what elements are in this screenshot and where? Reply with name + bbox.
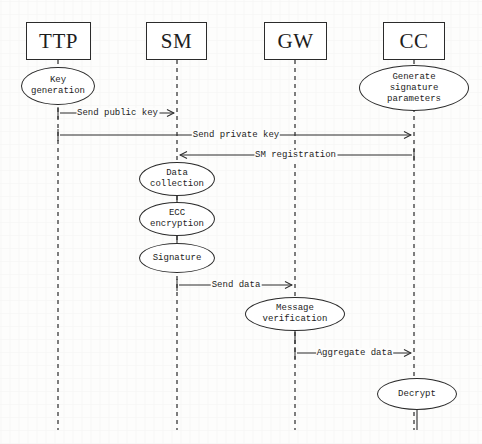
activity-key-generation[interactable]: Key generation (21, 67, 95, 105)
activity-label-generate-signature: Generate signature parameters (387, 72, 441, 105)
actor-label-cc: CC (399, 31, 428, 52)
message-label-send-private-key: Send private key (192, 130, 280, 140)
activity-label-key-generation: Key generation (31, 75, 85, 97)
activity-message-verification[interactable]: Message verification (245, 297, 345, 331)
actor-box-cc[interactable]: CC (383, 22, 445, 60)
sequence-diagram-canvas: TTPSMGWCC Key generationGenerate signatu… (0, 0, 482, 444)
activity-generate-signature[interactable]: Generate signature parameters (359, 65, 469, 111)
activity-data-collection[interactable]: Data collection (139, 162, 215, 196)
activity-ecc-encryption[interactable]: ECC encryption (139, 202, 215, 236)
actor-label-ttp: TTP (39, 31, 78, 52)
message-label-send-data: Send data (211, 280, 262, 290)
activity-label-decrypt: Decrypt (398, 389, 436, 400)
message-label-send-public-key: Send public key (76, 108, 159, 118)
activity-label-signature: Signature (153, 253, 202, 264)
activity-decrypt[interactable]: Decrypt (377, 378, 457, 410)
activity-label-message-verification: Message verification (263, 303, 328, 325)
actor-box-gw[interactable]: GW (264, 22, 327, 60)
actor-label-gw: GW (278, 31, 314, 52)
actor-box-sm[interactable]: SM (146, 22, 207, 60)
message-label-aggregate-data: Aggregate data (316, 348, 394, 358)
actor-box-ttp[interactable]: TTP (26, 22, 91, 60)
message-arrows-group (58, 107, 414, 359)
activity-label-ecc-encryption: ECC encryption (150, 208, 204, 230)
activity-label-data-collection: Data collection (150, 168, 204, 190)
activity-signature[interactable]: Signature (139, 243, 215, 273)
message-label-sm-registration: SM registration (254, 150, 337, 160)
actor-label-sm: SM (161, 31, 192, 52)
